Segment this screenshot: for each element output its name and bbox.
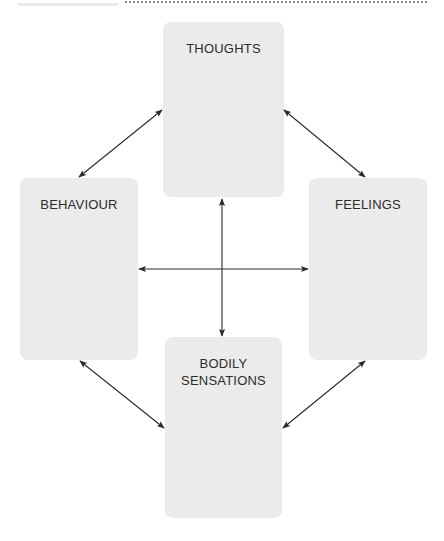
arrow-thoughts-behaviour	[79, 110, 162, 177]
dotted-divider	[125, 1, 427, 3]
node-behaviour: BEHAVIOUR	[20, 178, 138, 360]
node-thoughts-label: THOUGHTS	[163, 22, 284, 57]
node-bodily-sensations: BODILY SENSATIONS	[165, 337, 282, 518]
node-bodily-label-line1: BODILY	[200, 356, 248, 371]
node-behaviour-label: BEHAVIOUR	[20, 178, 138, 213]
cut-off-text-line	[18, 0, 118, 6]
node-bodily-label-line2: SENSATIONS	[181, 373, 266, 388]
arrow-feelings-bodily	[283, 361, 365, 428]
arrow-behaviour-bodily	[80, 361, 164, 428]
node-feelings: FEELINGS	[309, 178, 427, 360]
arrow-thoughts-feelings	[284, 110, 365, 177]
node-feelings-label: FEELINGS	[309, 178, 427, 213]
node-bodily-sensations-label: BODILY SENSATIONS	[165, 337, 282, 389]
node-thoughts: THOUGHTS	[163, 22, 284, 197]
